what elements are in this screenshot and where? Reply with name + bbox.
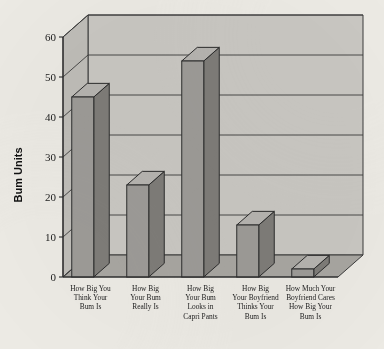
category-label-line: Your Bum bbox=[130, 293, 161, 302]
category-label-line: How Big Your bbox=[289, 302, 332, 311]
category-label-line: How Big bbox=[242, 284, 269, 293]
y-tick-label-30: 30 bbox=[45, 151, 57, 163]
category-label-line: How Big bbox=[132, 284, 159, 293]
bar-front-face-5 bbox=[292, 269, 314, 277]
category-label-1: How Big YouThink YourBum Is bbox=[70, 284, 111, 311]
y-axis-title: Bum Units bbox=[12, 148, 24, 203]
y-tick-label-40: 40 bbox=[45, 111, 57, 123]
category-label-line: Boyfriend Cares bbox=[286, 293, 335, 302]
chart-container: 0102030405060Bum UnitsHow Big YouThink Y… bbox=[0, 0, 384, 349]
category-label-5: How Much YourBoyfriend CaresHow Big Your… bbox=[286, 284, 336, 321]
y-tick-label-0: 0 bbox=[51, 271, 57, 283]
category-label-line: Bum Is bbox=[245, 312, 267, 321]
category-label-line: How Big bbox=[187, 284, 214, 293]
category-label-line: Looks in bbox=[187, 302, 213, 311]
y-tick-label-50: 50 bbox=[45, 71, 57, 83]
category-label-4: How BigYour BoyfriendThinks YourBum Is bbox=[232, 284, 279, 321]
category-label-3: How BigYour BumLooks inCapri Pants bbox=[183, 284, 217, 321]
bar-2 bbox=[127, 171, 165, 277]
bar-chart: 0102030405060Bum UnitsHow Big YouThink Y… bbox=[0, 0, 384, 349]
bar-side-face-3 bbox=[204, 47, 220, 277]
y-tick-label-20: 20 bbox=[45, 191, 57, 203]
bar-side-face-1 bbox=[94, 83, 110, 277]
category-label-line: Your Bum bbox=[185, 293, 216, 302]
y-tick-label-10: 10 bbox=[45, 231, 57, 243]
category-label-line: Really Is bbox=[132, 302, 159, 311]
category-label-line: Capri Pants bbox=[183, 312, 217, 321]
bar-front-face-2 bbox=[127, 185, 149, 277]
bar-front-face-3 bbox=[182, 61, 204, 277]
bar-front-face-1 bbox=[72, 97, 94, 277]
category-label-line: Think Your bbox=[74, 293, 108, 302]
category-label-line: How Big You bbox=[70, 284, 111, 293]
bar-4 bbox=[237, 211, 275, 277]
bar-front-face-4 bbox=[237, 225, 259, 277]
bar-1 bbox=[72, 83, 110, 277]
category-label-line: Bum Is bbox=[80, 302, 102, 311]
bar-side-face-2 bbox=[149, 171, 165, 277]
y-tick-label-60: 60 bbox=[45, 31, 57, 43]
category-label-line: Thinks Your bbox=[237, 302, 274, 311]
category-label-line: How Much Your bbox=[286, 284, 336, 293]
bar-3 bbox=[182, 47, 220, 277]
category-label-line: Bum Is bbox=[300, 312, 322, 321]
category-label-2: How BigYour BumReally Is bbox=[130, 284, 161, 311]
category-label-line: Your Boyfriend bbox=[232, 293, 279, 302]
